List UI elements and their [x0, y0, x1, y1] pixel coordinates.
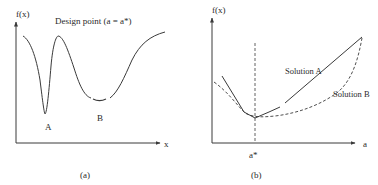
panel-b-x-axis-label: a [363, 139, 367, 149]
figure: f(x) x Design point (a = a*) A B (a) f(x… [0, 0, 378, 185]
panel-a-label-minimum-b: B [97, 113, 103, 123]
panel-a-y-axis-label: f(x) [16, 9, 30, 19]
panel-b-caption: (b) [251, 170, 262, 180]
panel-b-design-point-label: a* [249, 150, 258, 160]
panel-a-label-minimum-a: A [45, 122, 52, 132]
panel-b-solution-b-curve [214, 38, 362, 117]
panel-a-function-curve-right [110, 32, 165, 98]
panel-b-y-axis-label: f(x) [212, 5, 226, 15]
panel-a-x-axis-label: x [164, 139, 169, 149]
panel-a-caption: (a) [80, 170, 90, 180]
panel-b: f(x) a a* Solution A Solution B (b) [212, 5, 370, 180]
panel-a-function-curve [23, 36, 91, 114]
panel-a: f(x) x Design point (a = a*) A B (a) [16, 9, 169, 180]
panel-b-solution-a-curve [222, 37, 362, 118]
panel-a-minimum-b-segment [93, 99, 106, 101]
panel-b-solution-b-label: Solution B [333, 89, 370, 99]
panel-a-title: Design point (a = a*) [55, 16, 132, 26]
panel-b-solution-a-label: Solution A [285, 66, 322, 76]
